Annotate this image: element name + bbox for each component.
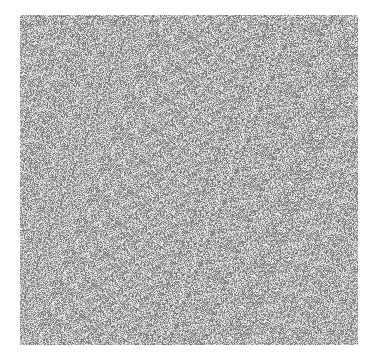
- noise-texture: [20, 15, 358, 345]
